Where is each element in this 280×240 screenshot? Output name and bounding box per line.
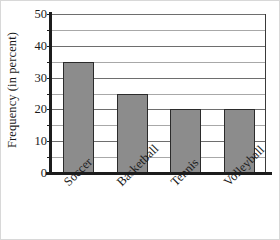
y-axis-tick-labels: 01020304050 <box>21 1 49 240</box>
bar-chart-figure: Frequency (in percent) 01020304050 Socce… <box>0 0 280 240</box>
y-axis-title: Frequency (in percent) <box>5 32 20 148</box>
y-axis-tick-mark <box>47 125 52 126</box>
y-axis-tick-mark <box>47 14 52 15</box>
y-axis-tick-label: 20 <box>35 102 48 117</box>
y-axis-tick-mark <box>47 157 52 158</box>
y-axis-tick-mark <box>47 30 52 31</box>
gridline-minor <box>52 30 265 31</box>
y-axis-tick-mark <box>47 78 52 79</box>
y-axis-tick-mark <box>47 62 52 63</box>
y-axis-tick-mark <box>47 141 52 142</box>
gridline-major <box>52 14 265 15</box>
y-axis-tick-label: 50 <box>35 7 48 22</box>
x-axis-tick-labels: SoccerBasketballTennisVolleyball <box>52 175 266 240</box>
bar <box>63 62 94 173</box>
y-axis-tick-label: 40 <box>35 38 48 53</box>
y-axis-tick-label: 10 <box>35 134 48 149</box>
y-axis-tick-mark <box>47 46 52 47</box>
y-axis-tick-label: 30 <box>35 70 48 85</box>
gridline-major <box>52 46 265 47</box>
y-axis-tick-mark <box>47 94 52 95</box>
y-axis-tick-mark <box>47 109 52 110</box>
y-axis-title-container: Frequency (in percent) <box>1 1 23 179</box>
